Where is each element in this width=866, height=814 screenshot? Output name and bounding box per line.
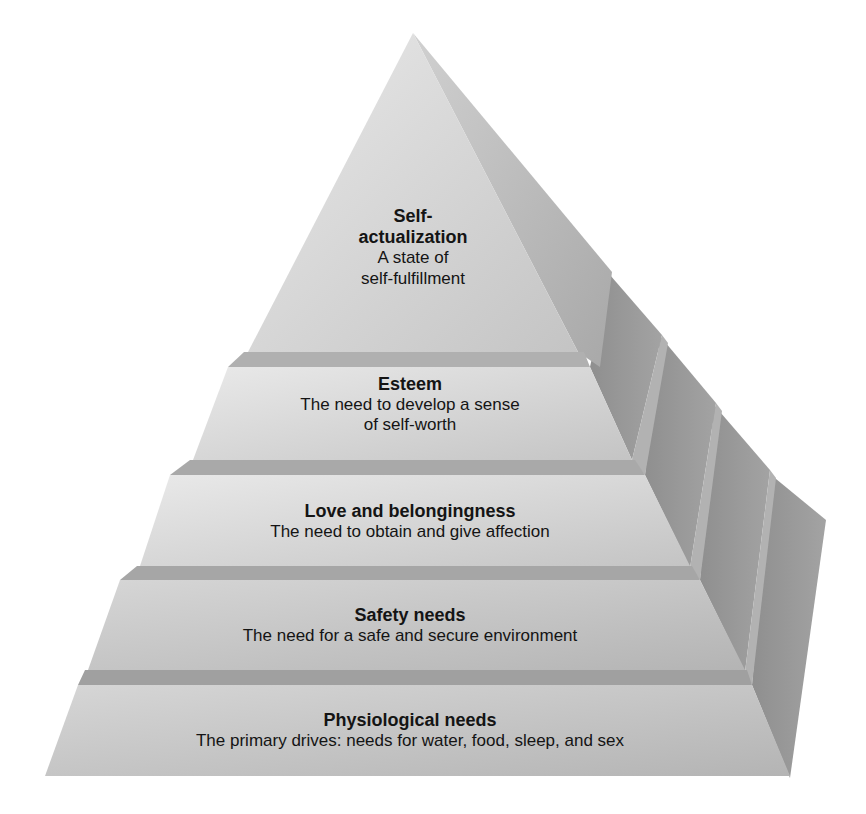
tier-description: The need to develop a sense [300, 395, 519, 415]
tier-description: The need for a safe and secure environme… [243, 626, 578, 646]
ledge-4 [78, 670, 752, 685]
tier-title: Love and belongingness [270, 501, 549, 522]
tier-description-line2: of self-worth [300, 415, 519, 435]
tier-label-safety: Safety needs The need for a safe and sec… [243, 605, 578, 646]
tier-title: Safety needs [243, 605, 578, 626]
tier-label-physiological: Physiological needs The primary drives: … [196, 710, 624, 751]
tier-description: The primary drives: needs for water, foo… [196, 731, 624, 751]
tier-description: The need to obtain and give affection [270, 522, 549, 542]
tier-label-esteem: Esteem The need to develop a sense of se… [300, 374, 519, 435]
tier-title: Esteem [300, 374, 519, 395]
ledge-3 [120, 566, 700, 580]
tier-title-line2: actualization [358, 227, 467, 248]
ledge-1 [228, 352, 590, 367]
tier-label-self-actualization: Self- actualization A state of self-fulf… [358, 206, 467, 289]
tier-description-line2: self-fulfillment [358, 269, 467, 289]
tier-title: Physiological needs [196, 710, 624, 731]
tier-title: Self- [358, 206, 467, 227]
tier-label-love: Love and belongingness The need to obtai… [270, 501, 549, 542]
tier-description: A state of [358, 248, 467, 268]
ledge-2 [170, 460, 645, 475]
